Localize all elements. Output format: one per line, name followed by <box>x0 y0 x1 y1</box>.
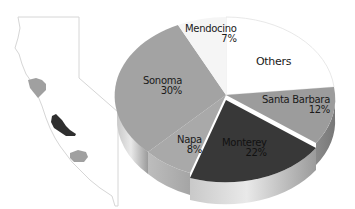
label-mendocino-pct: 7% <box>185 34 237 44</box>
label-others: Others <box>256 57 291 67</box>
label-sonoma-pct: 30% <box>143 86 182 96</box>
chart-stage: Mendocino 7% Others Sonoma 30% Santa Bar… <box>0 0 355 209</box>
label-monterey: Monterey 22% <box>222 138 267 158</box>
california-map <box>15 17 118 206</box>
label-napa-pct: 8% <box>177 145 202 155</box>
california-outline <box>15 17 118 206</box>
label-monterey-pct: 22% <box>222 148 267 158</box>
label-others-name: Others <box>256 55 291 68</box>
label-sonoma: Sonoma 30% <box>143 76 182 96</box>
label-napa: Napa 8% <box>177 135 202 155</box>
label-santa-barbara-pct: 12% <box>262 105 330 115</box>
label-santa-barbara: Santa Barbara 12% <box>262 95 330 115</box>
label-mendocino: Mendocino 7% <box>185 24 237 44</box>
